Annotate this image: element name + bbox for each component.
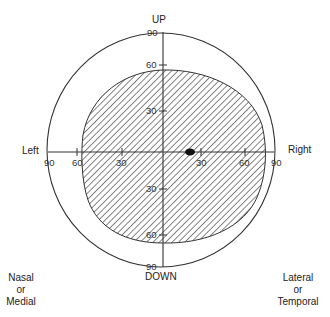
tick-label-down-30: 30 [146,184,157,194]
tick-label-left-90: 90 [44,158,55,168]
corner-label-line: Lateral [272,272,324,284]
visual-field-region [60,50,280,260]
label-nasal-medial: Nasal or Medial [6,272,36,308]
tick-label-right-30: 30 [196,158,207,168]
tick-label-up-90: 90 [147,28,158,38]
tick-label-right-90: 90 [271,158,282,168]
tick-label-right-60: 60 [239,158,250,168]
corner-label-line: Medial [6,296,36,308]
label-lateral-temporal: Lateral or Temporal [272,272,324,308]
tick-label-down-90: 90 [146,262,157,272]
label-left: Left [22,145,39,156]
corner-label-line: Temporal [272,296,324,308]
tick-label-up-30: 30 [146,106,157,116]
tick-label-left-60: 60 [72,158,83,168]
corner-label-line: Nasal [6,272,36,284]
label-up: UP [152,14,166,25]
tick-label-down-60: 60 [146,230,157,240]
corner-label-line: or [272,284,324,296]
tick-label-up-60: 60 [146,60,157,70]
blind-spot-marker [185,149,195,156]
label-right: Right [288,144,311,155]
tick-label-left-30: 30 [116,158,127,168]
label-down: DOWN [145,271,177,282]
corner-label-line: or [6,284,36,296]
